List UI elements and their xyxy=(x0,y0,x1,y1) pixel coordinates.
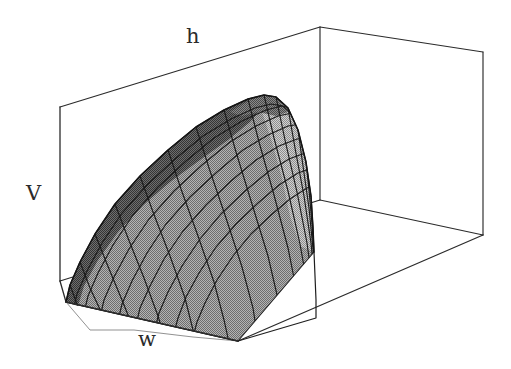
box-edge-floor-back-right xyxy=(320,200,483,235)
axis-label-h: h xyxy=(186,26,200,47)
box-edge-top-right-back xyxy=(320,27,483,52)
surface-plot-figure: h V w xyxy=(0,0,511,369)
surface-plot-canvas xyxy=(0,0,511,369)
surface-mesh-group xyxy=(66,95,334,341)
box-edge-front-left-drop xyxy=(60,281,66,302)
axis-label-w: w xyxy=(138,329,156,350)
axis-label-v: V xyxy=(26,183,41,204)
